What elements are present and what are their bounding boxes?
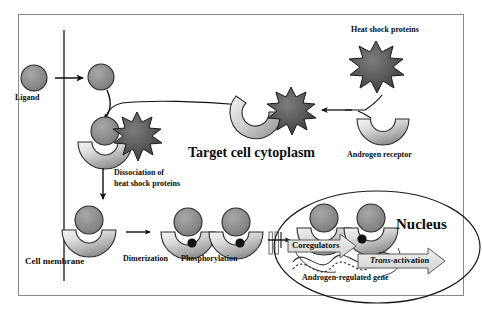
- phosphorylation-dot-dimer-right: [235, 238, 244, 247]
- ligand-intracellular-icon: [88, 64, 114, 90]
- trans-activation-italic-part: Trans: [370, 255, 390, 265]
- receptor-dissociated-ligand-icon: [75, 206, 103, 234]
- dissociation-label-line2: heat shock proteins: [114, 180, 180, 189]
- assembly-branch-arrow-2: [358, 111, 371, 118]
- dimer-left-ligand-icon: [174, 208, 202, 236]
- complex-transport-arrow: [106, 101, 243, 117]
- nuclear-dimer-left-ligand-icon: [310, 204, 338, 232]
- androgen-receptor-label: Androgen receptor: [347, 151, 412, 160]
- ligand-extracellular-icon: [21, 65, 47, 91]
- cell-membrane-label: Cell membrane: [25, 257, 84, 267]
- androgen-receptor-free-icon: [357, 119, 409, 145]
- phosphorylation-dot-nuclear: [357, 234, 366, 243]
- assembly-branch-arrow: [345, 95, 382, 110]
- figure-root: Ligand Cell membrane Heat shock proteins…: [0, 0, 482, 311]
- phosphorylation-label: Phosphorylation: [181, 255, 237, 264]
- phosphorylation-dot-dimer-left: [187, 238, 196, 247]
- trans-activation-rest-part: -activation: [390, 255, 429, 265]
- ligand-binding-arrow: [104, 90, 110, 120]
- target-cell-cytoplasm-label: Target cell cytoplasm: [188, 145, 315, 160]
- ligand-bound-icon: [91, 117, 119, 145]
- dissociation-label-line1: Dissociation of: [114, 169, 164, 178]
- receptor-ligand-bound-bowl-shape: [78, 142, 132, 169]
- ligand-label: Ligand: [15, 94, 39, 103]
- coregulators-label: Coregulators: [292, 240, 340, 250]
- nucleus-label: Nucleus: [396, 216, 447, 232]
- dimer-right-ligand-icon: [222, 208, 250, 236]
- dimerization-label: Dimerization: [123, 255, 168, 264]
- nuclear-dimer-right-ligand-icon: [357, 204, 385, 232]
- nuclear-pore-bar-1: [269, 232, 272, 254]
- heat-shock-proteins-free-icon: [349, 41, 404, 93]
- androgen-regulated-gene-label: Androgen-regulated gene: [302, 274, 389, 283]
- heat-shock-proteins-label: Heat shock proteins: [351, 26, 419, 35]
- trans-activation-label: Trans-activation: [370, 255, 429, 265]
